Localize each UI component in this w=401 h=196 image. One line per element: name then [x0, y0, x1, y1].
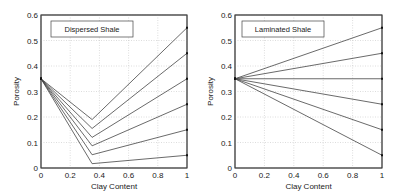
y-tick-label: 0.1: [27, 139, 39, 148]
data-point: [381, 154, 383, 156]
y-tick-label: 0: [228, 164, 233, 173]
data-point: [186, 78, 188, 80]
y-tick-label: 0: [34, 164, 39, 173]
y-tick-label: 0.4: [221, 62, 233, 71]
y-tick-label: 0.5: [221, 37, 233, 46]
data-point: [186, 154, 188, 156]
laminated-shale-plot: 00.20.40.60.8100.10.20.30.40.50.6Laminat…: [206, 11, 385, 191]
chart-title: Dispersed Shale: [64, 25, 119, 34]
x-tick-label: 0.8: [347, 171, 359, 180]
y-tick-label: 0.6: [27, 11, 39, 20]
y-tick-label: 0.5: [27, 37, 39, 46]
x-tick-label: 0: [233, 171, 238, 180]
y-tick-label: 0.3: [221, 88, 233, 97]
data-point: [381, 78, 383, 80]
x-tick-label: 0.2: [259, 171, 271, 180]
chart-title: Laminated Shale: [255, 25, 311, 34]
data-point: [186, 129, 188, 131]
data-point: [186, 52, 188, 54]
x-axis-label: Clay Content: [285, 182, 332, 191]
x-tick-label: 1: [185, 171, 190, 180]
data-point: [186, 27, 188, 29]
x-tick-label: 0.6: [318, 171, 330, 180]
y-axis-label: Porosity: [12, 77, 21, 106]
y-tick-label: 0.2: [27, 113, 39, 122]
data-point: [234, 78, 236, 80]
x-axis-label: Clay Content: [91, 182, 138, 191]
data-point: [186, 103, 188, 105]
figure: 00.20.40.60.8100.10.20.30.40.50.6Dispers…: [0, 0, 401, 196]
y-tick-label: 0.4: [27, 62, 39, 71]
dispersed-shale-plot: 00.20.40.60.8100.10.20.30.40.50.6Dispers…: [12, 11, 190, 191]
data-point: [381, 27, 383, 29]
y-axis-label: Porosity: [206, 77, 215, 106]
x-tick-label: 0.2: [65, 171, 77, 180]
data-point: [40, 78, 42, 80]
data-point: [381, 103, 383, 105]
x-tick-label: 0.6: [123, 171, 135, 180]
y-tick-label: 0.2: [221, 113, 233, 122]
y-tick-label: 0.6: [221, 11, 233, 20]
x-tick-label: 0.8: [152, 171, 164, 180]
x-tick-label: 1: [380, 171, 385, 180]
x-tick-label: 0: [39, 171, 44, 180]
x-tick-label: 0.4: [94, 171, 106, 180]
x-tick-label: 0.4: [288, 171, 300, 180]
y-tick-label: 0.3: [27, 88, 39, 97]
y-tick-label: 0.1: [221, 139, 233, 148]
data-point: [381, 52, 383, 54]
data-point: [381, 129, 383, 131]
